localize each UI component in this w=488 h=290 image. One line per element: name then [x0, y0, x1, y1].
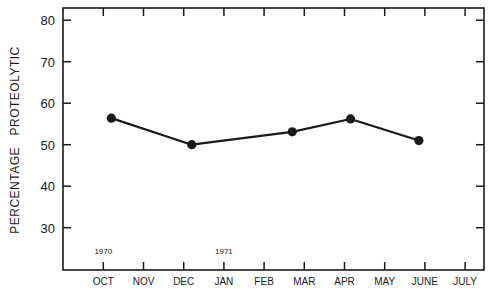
- x-tick-label: APR: [334, 276, 355, 287]
- x-tick-label: JAN: [214, 276, 233, 287]
- y-tick-label: 70: [41, 55, 55, 70]
- year-label: 1971: [215, 247, 233, 256]
- data-series: [107, 114, 424, 150]
- line-chart: 304050607080 OCTNOVDECJANFEBMARAPRMAYJUN…: [0, 0, 488, 290]
- y-tick-label: 50: [41, 138, 55, 153]
- x-axis-ticks: OCTNOVDECJANFEBMARAPRMAYJUNEJULY: [93, 8, 478, 287]
- year-annotations: 19701971: [94, 247, 233, 256]
- y-tick-label: 80: [41, 13, 55, 28]
- x-tick-label: JULY: [453, 276, 477, 287]
- y-tick-label: 40: [41, 179, 55, 194]
- x-tick-label: FEB: [254, 276, 274, 287]
- y-axis-ticks: 304050607080: [41, 13, 484, 236]
- data-point-marker: [187, 140, 196, 149]
- x-tick-label: MAR: [293, 276, 315, 287]
- data-point-marker: [414, 136, 423, 145]
- x-tick-label: JUNE: [412, 276, 438, 287]
- data-point-marker: [288, 127, 297, 136]
- x-tick-label: DEC: [173, 276, 194, 287]
- series-line: [111, 118, 419, 145]
- y-tick-label: 30: [41, 221, 55, 236]
- x-tick-label: OCT: [93, 276, 114, 287]
- x-tick-label: NOV: [133, 276, 155, 287]
- data-point-marker: [346, 114, 355, 123]
- y-tick-label: 60: [41, 96, 55, 111]
- y-axis-title: PERCENTAGE PROTEOLYTIC: [8, 46, 22, 234]
- year-label: 1970: [94, 247, 112, 256]
- x-tick-label: MAY: [374, 276, 395, 287]
- data-point-marker: [107, 114, 116, 123]
